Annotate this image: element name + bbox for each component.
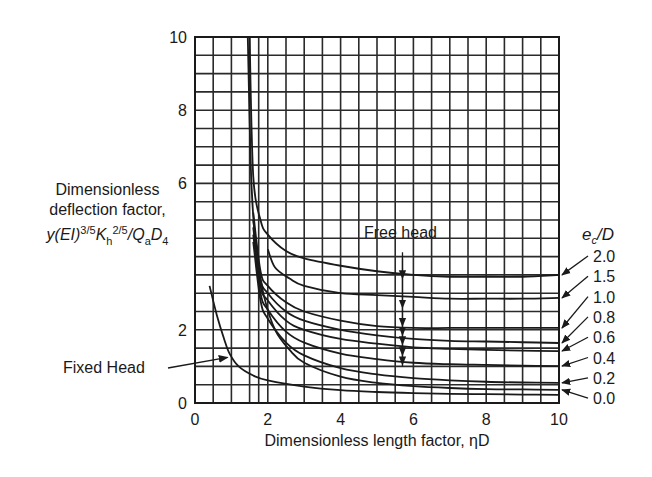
curve-0-6 (253, 227, 559, 351)
legend: 2.01.51.00.80.60.40.20.0 (562, 248, 615, 407)
x-tick-label: 4 (336, 411, 345, 428)
y-tick-label: 10 (169, 29, 187, 46)
legend-arrow (562, 256, 588, 275)
y-axis-label-formula: y(EI)3/5Kh2/5/QaD4 (20, 220, 195, 251)
x-tick-label: 0 (191, 411, 200, 428)
legend-arrow (562, 390, 588, 398)
x-tick-label: 6 (409, 411, 418, 428)
legend-label-0-6: 0.6 (593, 329, 615, 346)
curves (210, 37, 559, 395)
legend-label-2-0: 2.0 (593, 248, 615, 265)
legend-label-0-8: 0.8 (593, 309, 615, 326)
legend-label-1-5: 1.5 (593, 268, 615, 285)
y-tick-label: 2 (178, 322, 187, 339)
legend-arrow (562, 276, 588, 298)
legend-label-0-4: 0.4 (593, 350, 615, 367)
x-tick-label: 10 (550, 411, 568, 428)
y-axis-label-line1: Dimensionless (20, 180, 195, 200)
fixed-head-label: Fixed Head (63, 359, 145, 376)
legend-label-0-0: 0.0 (593, 390, 615, 407)
free-head-label: Free head (364, 224, 437, 241)
y-tick-label: 8 (178, 102, 187, 119)
y-axis-label: Dimensionless deflection factor, y(EI)3/… (20, 180, 195, 251)
x-tick-label: 8 (482, 411, 491, 428)
x-axis-label: Dimensionless length factor, ηD (265, 432, 490, 449)
legend-arrow (562, 358, 588, 367)
legend-label-1-0: 1.0 (593, 289, 615, 306)
x-tick-label: 2 (263, 411, 272, 428)
y-axis-label-line2: deflection factor, (20, 200, 195, 220)
legend-title: ec/D (582, 225, 614, 246)
legend-arrow (562, 378, 588, 383)
y-tick-label: 0 (178, 395, 187, 412)
legend-arrow (562, 297, 588, 328)
legend-label-0-2: 0.2 (593, 370, 615, 387)
